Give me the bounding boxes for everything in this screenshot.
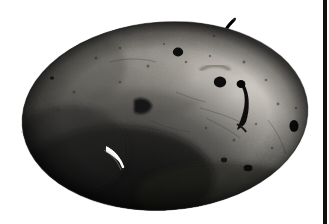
page-edge-bar — [323, 0, 327, 224]
potato-figure: Potato tuber photograph Grayscale photog… — [0, 0, 329, 224]
page-canvas: Potato tuber photograph Grayscale photog… — [0, 0, 329, 224]
potato-illustration: Potato tuber photograph Grayscale photog… — [0, 0, 329, 224]
